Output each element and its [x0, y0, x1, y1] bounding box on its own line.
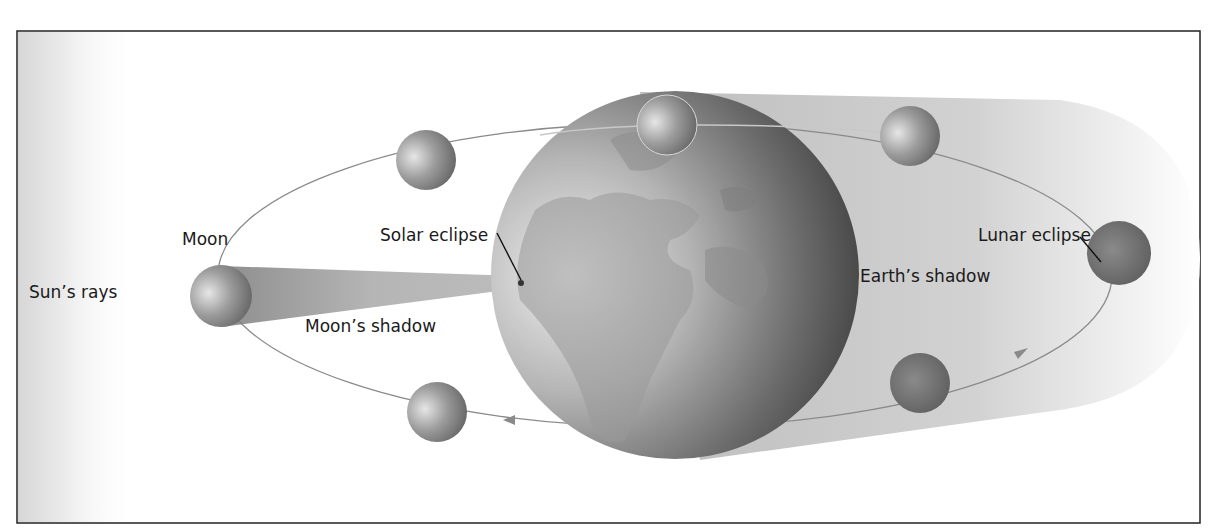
moon-left — [190, 265, 252, 327]
moon-lower-right — [890, 353, 950, 413]
moon-lower-left — [407, 382, 467, 442]
label-lunar-eclipse: Lunar eclipse — [978, 225, 1091, 245]
moon-upper-left — [396, 130, 456, 190]
diagram-canvas: Sun’s rays Moon Solar eclipse Moon’s sha… — [0, 0, 1218, 532]
label-moon: Moon — [182, 229, 228, 249]
label-solar-eclipse: Solar eclipse — [380, 225, 488, 245]
label-moons-shadow: Moon’s shadow — [305, 316, 436, 336]
label-earths-shadow: Earth’s shadow — [860, 266, 990, 286]
moon-upper-right — [880, 106, 940, 166]
moon-lunar-eclipse — [1087, 221, 1151, 285]
solar-eclipse-spot — [518, 280, 524, 286]
moon-top — [637, 95, 697, 155]
label-sun-rays: Sun’s rays — [29, 282, 117, 302]
eclipse-diagram: Sun’s rays Moon Solar eclipse Moon’s sha… — [0, 0, 1218, 532]
